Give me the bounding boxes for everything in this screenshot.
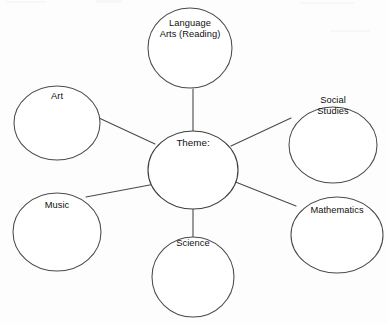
node-label-music: Music [45,200,70,210]
node-science[interactable]: Science [152,237,234,317]
node-label-social-studies: Social [320,95,346,105]
node-mathematics[interactable]: Mathematics [291,197,383,273]
node-label-mathematics: Mathematics [310,205,364,215]
web-canvas: LanguageArts (Reading)SocialStudiesMathe… [0,0,388,324]
theme-web-diagram: LanguageArts (Reading)SocialStudiesMathe… [0,0,388,324]
node-art[interactable]: Art [14,86,100,160]
node-label-language-arts: Language [169,18,211,28]
node-label-science: Science [176,238,209,248]
node-shape-science [152,237,234,317]
connector-music [86,184,155,197]
connector-social-studies [231,118,291,146]
node-music[interactable]: Music [13,193,101,271]
node-theme[interactable]: Theme: [148,131,238,209]
node-social-studies[interactable]: SocialStudies [289,95,377,183]
node-shape-social-studies [289,107,377,183]
node-label-social-studies: Studies [317,106,349,116]
connector-mathematics [233,181,296,206]
node-label-theme: Theme: [176,137,209,148]
node-language-arts[interactable]: LanguageArts (Reading) [148,8,232,88]
center-node-layer: Theme: [148,131,238,209]
connector-art [99,118,155,144]
node-label-language-arts: Arts (Reading) [160,29,221,39]
node-label-art: Art [51,91,63,101]
